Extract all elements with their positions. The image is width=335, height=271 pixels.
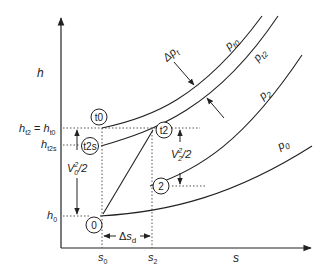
svg-text:t0: t0 bbox=[95, 112, 104, 123]
svg-text:t2: t2 bbox=[160, 125, 169, 136]
h-label-h0: h0 bbox=[47, 209, 57, 223]
svg-text:2: 2 bbox=[158, 181, 164, 192]
isobar-p0 bbox=[100, 146, 312, 216]
isobar-label-p0: p0 bbox=[274, 136, 292, 155]
isobar-label-pt2: pt2 bbox=[250, 45, 271, 66]
isobar-label-pt0: pt0 bbox=[222, 34, 243, 55]
state-t2: t2 bbox=[156, 122, 172, 138]
pressure-loss-arrow-top bbox=[174, 62, 194, 85]
state-2: 2 bbox=[153, 178, 169, 194]
state-t0: t0 bbox=[91, 109, 107, 125]
h-s-diagram: h s pt0 pt2 p2 p0 Δpt V20/2 V22/2 bbox=[0, 0, 335, 271]
delta-sd-label: Δsd bbox=[119, 230, 136, 245]
isobar-p2 bbox=[150, 55, 302, 186]
isobar-pt0 bbox=[102, 16, 262, 128]
svg-text:t2s: t2s bbox=[83, 141, 96, 152]
h-label-ht2-ht0: ht2 = ht0 bbox=[19, 122, 56, 136]
h-axis-label: h bbox=[37, 66, 44, 80]
isobar-label-p2: p2 bbox=[256, 85, 275, 104]
svg-text:0: 0 bbox=[91, 220, 97, 231]
s-label-s2: s2 bbox=[148, 251, 158, 265]
state-0: 0 bbox=[86, 217, 102, 233]
pressure-loss-arrow-bottom bbox=[207, 98, 224, 118]
isobar-pt2 bbox=[101, 16, 278, 146]
v0-label: V20/2 bbox=[67, 161, 87, 176]
v2-label: V22/2 bbox=[171, 147, 191, 162]
s-axis-label: s bbox=[233, 251, 239, 265]
pressure-loss-label: Δpt bbox=[160, 44, 183, 67]
state-t2s: t2s bbox=[82, 138, 99, 155]
s-label-s0: s0 bbox=[98, 251, 108, 265]
h-label-ht2s: ht2s bbox=[41, 138, 57, 152]
